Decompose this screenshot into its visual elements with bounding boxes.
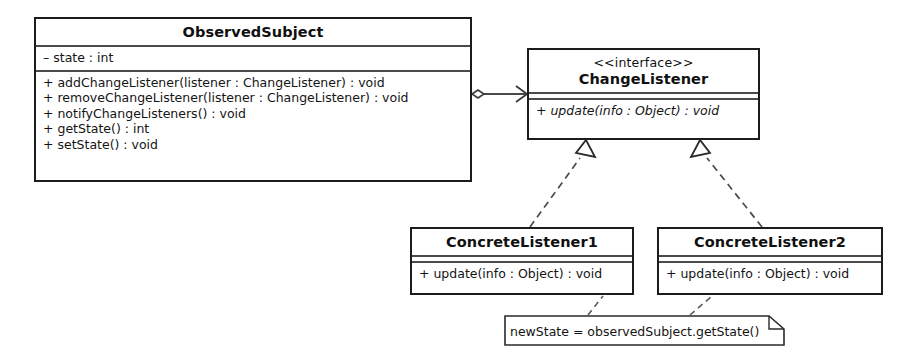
class-name-observed-subject: ObservedSubject xyxy=(36,19,470,45)
class-name-text: ChangeListener xyxy=(579,71,709,87)
relationship-note-anchor-listener2 xyxy=(690,296,712,315)
class-name-text: ObservedSubject xyxy=(183,24,324,40)
note-anchor-line xyxy=(588,296,603,315)
relationship-realization-listener2 xyxy=(691,140,762,227)
note-new-state[interactable]: newState = observedSubject.getState() xyxy=(504,315,785,346)
realization-line xyxy=(707,158,762,227)
operations-compartment-observed-subject: + addChangeListener(listener : ChangeLis… xyxy=(36,70,470,181)
stereotype-label: <<interface>> xyxy=(536,55,751,71)
attributes-compartment-observed-subject: – state : int xyxy=(36,45,470,70)
relationship-note-anchor-listener1 xyxy=(588,296,603,315)
operation-row: + notifyChangeListeners() : void xyxy=(43,106,463,122)
relationship-realization-listener1 xyxy=(530,140,595,227)
operations-compartment-change-listener: + update(info : Object) : void xyxy=(529,98,758,138)
class-box-concrete-listener-2[interactable]: ConcreteListener2 + update(info : Object… xyxy=(657,227,883,295)
operations-compartment-concrete-listener-2: + update(info : Object) : void xyxy=(659,261,881,293)
hollow-triangle-icon xyxy=(576,140,595,157)
class-name-text: ConcreteListener1 xyxy=(446,234,598,250)
operation-row: + setState() : void xyxy=(43,137,463,153)
open-arrow-icon xyxy=(516,86,527,102)
realization-line xyxy=(530,158,580,227)
class-name-change-listener: <<interface>> ChangeListener xyxy=(529,50,758,92)
note-anchor-line xyxy=(690,296,712,315)
operation-row: + update(info : Object) : void xyxy=(419,266,625,282)
operation-row: + removeChangeListener(listener : Change… xyxy=(43,90,463,106)
class-box-observed-subject[interactable]: ObservedSubject – state : int + addChang… xyxy=(34,17,472,182)
operations-compartment-concrete-listener-1: + update(info : Object) : void xyxy=(412,261,632,293)
operation-row: + update(info : Object) : void xyxy=(666,266,874,282)
note-text: newState = observedSubject.getState() xyxy=(510,323,759,338)
class-name-concrete-listener-2: ConcreteListener2 xyxy=(659,229,881,255)
operation-row: + getState() : int xyxy=(43,121,463,137)
class-box-change-listener[interactable]: <<interface>> ChangeListener + update(in… xyxy=(527,48,760,140)
uml-class-diagram: ObservedSubject – state : int + addChang… xyxy=(0,0,919,363)
class-box-concrete-listener-1[interactable]: ConcreteListener1 + update(info : Object… xyxy=(410,227,634,295)
attribute-row: – state : int xyxy=(43,50,463,66)
operation-row: + update(info : Object) : void xyxy=(536,103,751,119)
hollow-triangle-icon xyxy=(691,140,710,157)
operation-row: + addChangeListener(listener : ChangeLis… xyxy=(43,75,463,91)
class-name-concrete-listener-1: ConcreteListener1 xyxy=(412,229,632,255)
class-name-text: ConcreteListener2 xyxy=(694,234,846,250)
hollow-diamond-icon xyxy=(472,90,484,98)
relationship-aggregation-subject-listener xyxy=(472,86,527,102)
